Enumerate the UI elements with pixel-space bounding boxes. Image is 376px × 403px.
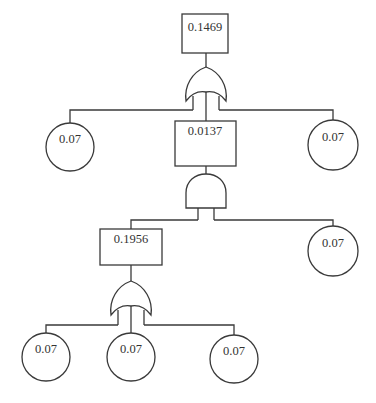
basic-event-right-l2: 0.07 — [308, 226, 358, 276]
basic-event-circle — [308, 226, 358, 276]
basic-event-circle — [210, 335, 258, 383]
basic-event-l3-2: 0.07 — [107, 333, 155, 381]
top-event-label: 0.1469 — [188, 20, 222, 34]
basic-event-label: 0.07 — [322, 236, 344, 250]
connector — [46, 325, 118, 333]
basic-event-label: 0.07 — [59, 132, 81, 146]
intermediate-event-label: 0.0137 — [188, 124, 222, 138]
basic-event-l3-1: 0.07 — [22, 333, 70, 381]
and-gate-icon — [186, 174, 226, 208]
intermediate-event-l1: 0.0137 — [175, 121, 236, 166]
basic-event-left-l1: 0.07 — [46, 123, 94, 171]
basic-event-circle — [308, 120, 358, 170]
intermediate-event-l2: 0.1956 — [100, 229, 162, 265]
connector — [131, 220, 198, 229]
fault-tree-diagram: 0.1469 0.07 0.0137 0.07 0.1956 0.07 — [0, 0, 376, 403]
basic-event-label: 0.07 — [223, 344, 245, 358]
connector — [214, 220, 333, 226]
basic-event-l3-3: 0.07 — [210, 335, 258, 383]
top-event: 0.1469 — [182, 14, 228, 53]
connector — [144, 325, 234, 335]
basic-event-circle — [46, 123, 94, 171]
basic-event-label: 0.07 — [120, 342, 142, 356]
basic-event-circle — [22, 333, 70, 381]
intermediate-event-label: 0.1956 — [114, 232, 148, 246]
basic-event-circle — [107, 333, 155, 381]
basic-event-right-l1: 0.07 — [308, 120, 358, 170]
basic-event-label: 0.07 — [35, 342, 57, 356]
basic-event-label: 0.07 — [322, 130, 344, 144]
connector — [219, 110, 333, 120]
